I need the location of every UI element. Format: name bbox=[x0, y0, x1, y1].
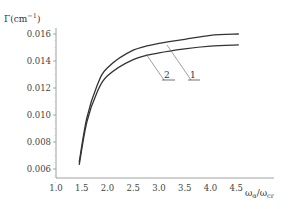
svg-text:0.014: 0.014 bbox=[27, 56, 51, 66]
svg-text:3.0: 3.0 bbox=[152, 183, 166, 193]
svg-text:4.0: 4.0 bbox=[204, 183, 218, 193]
svg-text:1.5: 1.5 bbox=[75, 183, 89, 193]
svg-text:2.5: 2.5 bbox=[126, 183, 140, 193]
svg-text:3.5: 3.5 bbox=[178, 183, 192, 193]
y-axis-label: Γ(cm−1) bbox=[4, 12, 40, 24]
svg-text:4.5: 4.5 bbox=[229, 183, 243, 193]
svg-text:0.006: 0.006 bbox=[27, 164, 51, 174]
axes bbox=[56, 28, 274, 178]
svg-text:2.0: 2.0 bbox=[101, 183, 115, 193]
svg-text:0.008: 0.008 bbox=[27, 137, 51, 147]
svg-text:2: 2 bbox=[164, 70, 170, 80]
chart: 0.0060.0080.0100.0120.0140.016 1.01.52.0… bbox=[0, 0, 292, 209]
svg-text:1: 1 bbox=[190, 70, 196, 80]
curves bbox=[79, 34, 239, 165]
svg-text:0.010: 0.010 bbox=[27, 110, 51, 120]
svg-text:1.0: 1.0 bbox=[49, 183, 63, 193]
x-axis-label: ωα/ωcr bbox=[245, 188, 275, 200]
y-axis-ticks: 0.0060.0080.0100.0120.0140.016 bbox=[27, 29, 56, 183]
svg-text:0.012: 0.012 bbox=[27, 83, 51, 93]
curve-2-label: 2 bbox=[146, 54, 175, 80]
svg-text:0.016: 0.016 bbox=[27, 29, 51, 39]
curve-2 bbox=[79, 45, 239, 165]
x-axis-ticks: 1.01.52.02.53.03.54.04.5 bbox=[49, 183, 243, 193]
